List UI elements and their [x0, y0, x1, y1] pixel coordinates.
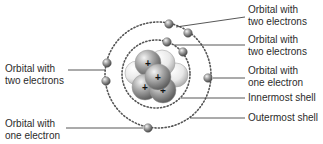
- label-innermost-shell: Innermost shell: [248, 92, 316, 104]
- electron-icon: [165, 20, 174, 29]
- electron-icon: [144, 124, 153, 133]
- plus-sign: +: [155, 72, 161, 83]
- label-line-1: Orbital with: [248, 65, 303, 77]
- label-orbital-one-electron-left: Orbital with one electron: [5, 118, 60, 142]
- label-line-1: Orbital with: [248, 4, 307, 16]
- label-orbital-one-electron-right: Orbital with one electron: [248, 65, 303, 89]
- nucleus: ++++: [125, 50, 188, 103]
- label-line-1: Orbital with: [5, 118, 60, 130]
- label-line-2: one electron: [248, 77, 303, 89]
- proton-icon: +: [145, 64, 171, 90]
- label-line-2: two electrons: [5, 75, 64, 87]
- label-orbital-two-electrons-left: Orbital with two electrons: [5, 63, 64, 87]
- label-line-1: Orbital with: [5, 63, 64, 75]
- label-line-2: two electrons: [248, 16, 307, 28]
- leader-line: [176, 17, 245, 27]
- electron-icon: [102, 77, 111, 86]
- label-line-1: Orbital with: [248, 34, 307, 46]
- electron-icon: [179, 48, 188, 57]
- electron-icon: [204, 74, 213, 83]
- label-line-1: Outermost shell: [248, 112, 318, 124]
- label-line-2: two electrons: [248, 46, 307, 58]
- electron-icon: [184, 29, 193, 38]
- label-line-2: one electron: [5, 130, 60, 142]
- label-orbital-two-electrons-second: Orbital with two electrons: [248, 34, 307, 58]
- label-line-1: Innermost shell: [248, 92, 316, 104]
- label-outermost-shell: Outermost shell: [248, 112, 318, 124]
- electron-icon: [103, 59, 112, 68]
- electron-icon: [163, 38, 172, 47]
- label-orbital-two-electrons-top: Orbital with two electrons: [248, 4, 307, 28]
